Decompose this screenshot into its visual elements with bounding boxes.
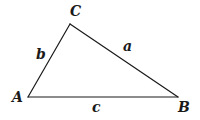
triangle-diagram: A B C a b c xyxy=(0,0,200,120)
side-label-c: c xyxy=(92,99,101,115)
side-b-line xyxy=(28,24,70,97)
side-label-b: b xyxy=(36,46,46,62)
vertex-label-a: A xyxy=(10,89,23,105)
vertex-label-c: C xyxy=(70,3,81,19)
vertex-label-b: B xyxy=(177,99,190,115)
side-label-a: a xyxy=(123,38,132,54)
side-a-line xyxy=(70,24,178,97)
